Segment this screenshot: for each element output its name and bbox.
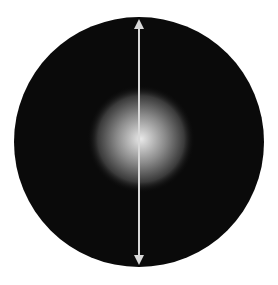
diagram-svg [0, 0, 278, 285]
central-glow [87, 85, 195, 193]
diagram-canvas [0, 0, 278, 285]
